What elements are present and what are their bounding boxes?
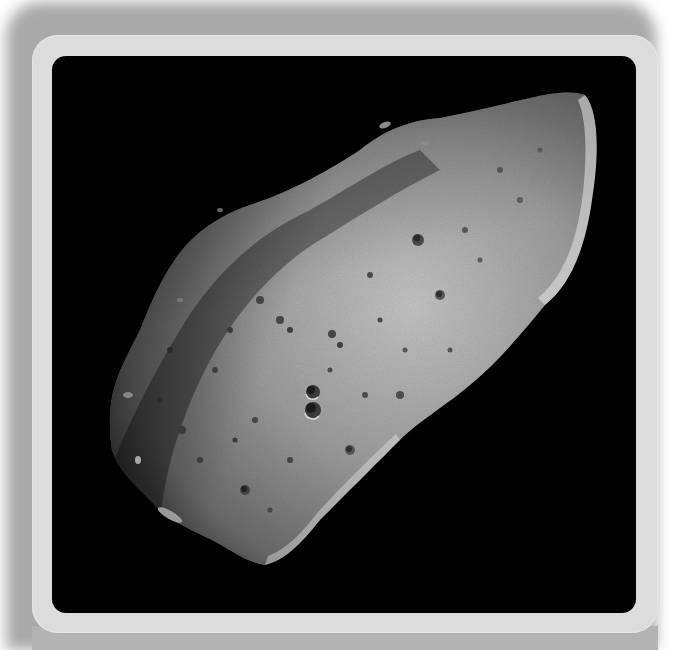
asteroid-photo [52, 56, 636, 613]
asteroid-body [52, 56, 636, 613]
asteroid-illustration [52, 56, 636, 613]
